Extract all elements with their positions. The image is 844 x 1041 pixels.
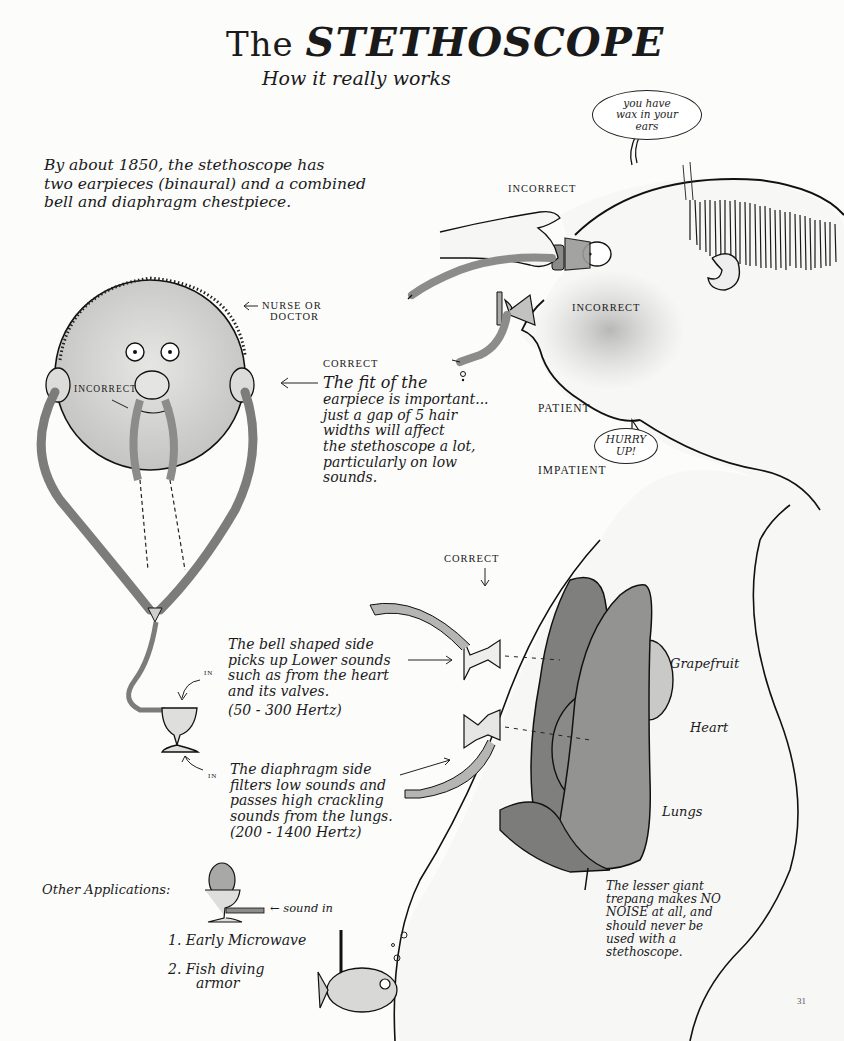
bell-side-note: The bell shaped side picks up Lower soun…	[228, 637, 391, 718]
title-main: STETHOSCOPE	[306, 18, 665, 65]
intro-line: two earpieces (binaural) and a combined	[44, 175, 366, 194]
label-sound-in: ← sound in	[270, 902, 333, 914]
trepang-note: The lesser giant trepang makes NO NOISE …	[606, 880, 721, 959]
label-incorrect-nose: INCORRECT	[572, 302, 641, 313]
other-applications-heading: Other Applications:	[42, 883, 170, 897]
title-prefix: The	[226, 24, 294, 64]
label-correct-chest: CORRECT	[444, 553, 499, 564]
note-line: and its valves.	[228, 684, 391, 700]
label-nurse-or-doctor: NURSE or DOCTOR	[262, 300, 322, 322]
label-impatient: IMPATIENT	[538, 464, 607, 476]
fish-diving-armor	[318, 930, 407, 1012]
application-item-1: 1. Early Microwave	[168, 933, 306, 948]
label-patient: PATIENT	[538, 402, 591, 414]
note-line: (50 - 300 Hertz)	[228, 703, 391, 719]
note-line: The fit of the	[323, 374, 489, 392]
note-line: sounds from the lungs.	[230, 809, 393, 825]
note-line: filters low sounds and	[230, 778, 393, 794]
label-incorrect-eye: INCORRECT	[508, 183, 577, 194]
page-title: The STETHOSCOPE	[226, 20, 664, 63]
note-line: passes high crackling	[230, 793, 393, 809]
intro-text: By about 1850, the stethoscope has two e…	[44, 156, 366, 212]
intro-line: bell and diaphragm chestpiece.	[44, 193, 366, 212]
intro-line: By about 1850, the stethoscope has	[44, 156, 366, 175]
note-line: sounds.	[323, 470, 489, 486]
label-grapefruit: Grapefruit	[670, 657, 739, 671]
page-subtitle: How it really works	[262, 68, 451, 89]
label-heart: Heart	[690, 721, 728, 735]
note-line: The bell shaped side	[228, 637, 391, 653]
label-lungs: Lungs	[662, 805, 702, 819]
note-line: just a gap of 5 hair	[323, 408, 489, 424]
speech-line: ears	[616, 121, 678, 133]
note-line: earpiece is important...	[323, 392, 489, 408]
label-line: DOCTOR	[262, 311, 322, 322]
page-number: 31	[797, 996, 806, 1006]
label-in-top: IN	[204, 670, 213, 678]
label-line: NURSE or	[262, 300, 322, 311]
speech-line: UP!	[606, 446, 646, 458]
note-line: stethoscope.	[606, 946, 721, 959]
note-line: particularly on low	[323, 455, 489, 471]
speech-bubble-wax: you have wax in your ears	[592, 90, 702, 140]
note-line: the stethoscope a lot,	[323, 439, 489, 455]
note-line: The diaphragm side	[230, 762, 393, 778]
note-line: should never be	[606, 920, 721, 933]
label-correct-earpiece: CORRECT	[323, 358, 378, 369]
egg-cup-microwave	[205, 863, 264, 922]
note-line: used with a	[606, 933, 721, 946]
note-line: widths will affect	[323, 423, 489, 439]
note-line: (200 - 1400 Hertz)	[230, 825, 393, 841]
speech-bubble-hurry: HURRY UP!	[594, 428, 658, 464]
label-in-bottom: IN	[208, 773, 217, 781]
note-line: picks up Lower sounds	[228, 653, 391, 669]
diaphragm-side-note: The diaphragm side filters low sounds an…	[230, 762, 393, 840]
label-incorrect-nose-tubes: INCORRECT	[74, 384, 137, 394]
note-line: such as from the heart	[228, 668, 391, 684]
earpiece-fit-note: The fit of the earpiece is important... …	[323, 374, 489, 486]
note-line: NOISE at all, and	[606, 906, 721, 919]
application-item-2-cont: armor	[196, 976, 239, 991]
